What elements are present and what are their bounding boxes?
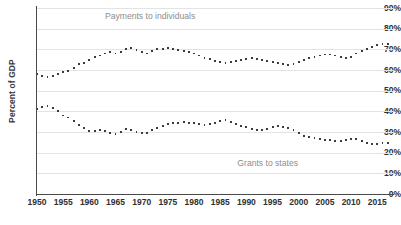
data-point — [146, 132, 148, 134]
data-point — [319, 138, 321, 140]
data-point — [334, 55, 336, 57]
data-point — [308, 136, 310, 138]
data-point — [214, 60, 216, 62]
data-point — [204, 124, 206, 126]
data-point — [382, 43, 384, 45]
plot-area — [37, 8, 393, 194]
data-point — [47, 105, 49, 107]
data-point — [303, 59, 305, 61]
data-point — [115, 53, 117, 55]
data-point — [329, 139, 331, 141]
data-point — [355, 138, 357, 140]
data-point — [125, 48, 127, 50]
gridline — [37, 132, 393, 133]
gridline — [37, 173, 393, 174]
data-point — [183, 50, 185, 52]
data-point — [303, 135, 305, 137]
data-point — [225, 62, 227, 64]
data-point — [172, 48, 174, 50]
data-point — [188, 122, 190, 124]
data-point — [172, 122, 174, 124]
data-point — [162, 48, 164, 50]
data-point — [277, 62, 279, 64]
data-point — [371, 143, 373, 145]
data-point — [67, 117, 69, 119]
data-point — [240, 125, 242, 127]
data-point — [151, 129, 153, 131]
data-point — [120, 131, 122, 133]
data-point — [57, 73, 59, 75]
data-point — [188, 51, 190, 53]
data-point — [329, 54, 331, 56]
data-point — [156, 48, 158, 50]
data-point — [350, 138, 352, 140]
data-point — [376, 143, 378, 145]
data-point — [177, 49, 179, 51]
data-point — [382, 142, 384, 144]
data-point — [340, 56, 342, 58]
data-point — [204, 57, 206, 59]
chart-container: Percent of GDP 90%80%70%60%50%40%30%20%1… — [0, 0, 401, 225]
data-point — [266, 60, 268, 62]
data-point — [136, 49, 138, 51]
data-point — [272, 61, 274, 63]
data-point — [94, 130, 96, 132]
data-point — [120, 51, 122, 53]
gridline — [37, 153, 393, 154]
data-point — [319, 55, 321, 57]
data-point — [78, 63, 80, 65]
data-point — [130, 47, 132, 49]
data-point — [88, 59, 90, 61]
data-point — [141, 132, 143, 134]
data-point — [67, 70, 69, 72]
data-point — [47, 76, 49, 78]
data-point — [125, 128, 127, 130]
gridline — [37, 70, 393, 71]
data-point — [261, 129, 263, 131]
data-point — [256, 129, 258, 131]
data-point — [371, 46, 373, 48]
gridline — [37, 29, 393, 30]
data-point — [109, 132, 111, 134]
data-point — [287, 64, 289, 66]
data-point — [293, 129, 295, 131]
data-point — [73, 120, 75, 122]
data-point — [198, 55, 200, 57]
data-point — [83, 62, 85, 64]
data-point — [298, 132, 300, 134]
data-point — [198, 123, 200, 125]
data-point — [219, 120, 221, 122]
data-point — [387, 43, 389, 45]
data-point — [251, 128, 253, 130]
data-point — [230, 121, 232, 123]
data-point — [282, 126, 284, 128]
data-point — [183, 121, 185, 123]
data-point — [308, 57, 310, 59]
data-point — [235, 123, 237, 125]
series-label-payments-to-individuals: Payments to individuals — [105, 11, 195, 21]
data-point — [41, 75, 43, 77]
y-axis-title: Percent of GDP — [7, 31, 17, 151]
data-point — [230, 61, 232, 63]
data-point — [251, 57, 253, 59]
data-point — [287, 127, 289, 129]
data-point — [109, 51, 111, 53]
data-point — [146, 53, 148, 55]
data-point — [366, 48, 368, 50]
data-point — [298, 61, 300, 63]
data-point — [355, 53, 357, 55]
gridline — [37, 49, 393, 50]
data-point — [376, 44, 378, 46]
data-point — [193, 122, 195, 124]
data-point — [345, 57, 347, 59]
x-axis-line — [36, 194, 394, 195]
data-point — [314, 56, 316, 58]
data-point — [130, 129, 132, 131]
series-label-grants-to-states: Grants to states — [237, 158, 298, 168]
data-point — [177, 122, 179, 124]
data-point — [235, 60, 237, 62]
data-point — [277, 125, 279, 127]
data-point — [324, 139, 326, 141]
data-point — [78, 124, 80, 126]
data-point — [334, 140, 336, 142]
